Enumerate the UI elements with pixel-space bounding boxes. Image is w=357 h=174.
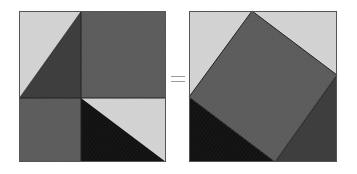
right-square: [189, 11, 337, 162]
equals-bar-top: [171, 76, 185, 77]
left-square: [19, 11, 166, 162]
equals-sign: [171, 76, 185, 88]
equals-bar-bottom: [171, 81, 185, 82]
